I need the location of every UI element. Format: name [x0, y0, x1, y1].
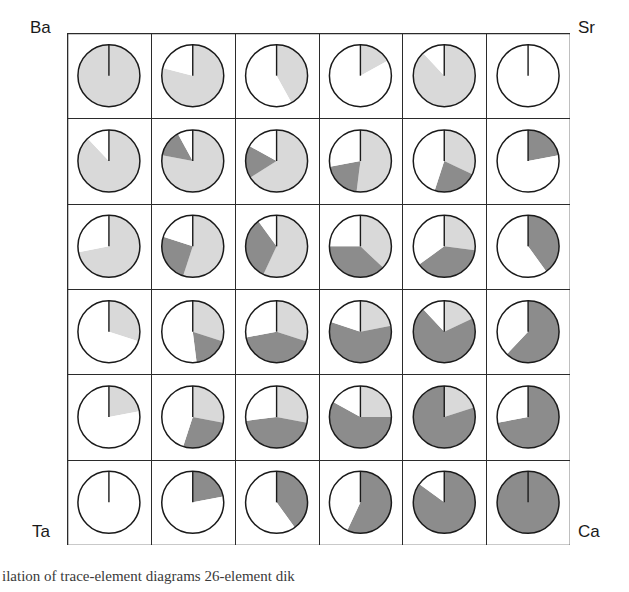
pie-cell [78, 301, 140, 363]
pie-cell [413, 471, 475, 533]
pie-cell [329, 215, 391, 277]
pie-cell [413, 130, 475, 192]
figure-caption-text: ilation of trace-element diagrams 26-ele… [0, 568, 629, 585]
pie-slice-dark [246, 417, 307, 448]
pie-slice-white [246, 386, 277, 421]
pie-cell [246, 45, 308, 107]
pie-cell [246, 471, 308, 533]
pie-slice-white [246, 301, 277, 338]
grid-lines-layer [67, 33, 570, 545]
pie-cell [413, 215, 475, 277]
pie-cell [246, 215, 308, 277]
corner-label-top-left: Ba [30, 18, 51, 38]
pie-slice-light [444, 215, 475, 250]
pie-cell [413, 386, 475, 448]
pie-grid [67, 33, 570, 545]
corner-label-bottom-right: Ca [578, 522, 600, 542]
pie-cell [246, 130, 308, 192]
figure-caption: ilation of trace-element diagrams 26-ele… [0, 568, 629, 592]
pie-cell [497, 45, 559, 107]
pie-slice-white [162, 301, 197, 363]
pie-cell [78, 215, 140, 277]
pie-cell [78, 471, 140, 533]
pie-cell [162, 386, 224, 448]
pie-cell [329, 301, 391, 363]
corner-label-bottom-left: Ta [32, 522, 50, 542]
pie-cell [497, 130, 559, 192]
pie-cell [78, 130, 140, 192]
pie-slice-light [193, 386, 224, 423]
pie-cell [162, 301, 224, 363]
pie-cell [246, 301, 308, 363]
corner-label-top-right: Sr [578, 18, 595, 38]
pie-cell [162, 215, 224, 277]
pie-slice-light [357, 130, 392, 192]
pie-cell [497, 386, 559, 448]
pie-slice-white [497, 386, 528, 423]
pie-cell [162, 130, 224, 192]
pie-cell [162, 471, 224, 533]
pie-cell [329, 471, 391, 533]
pie-cell [413, 45, 475, 107]
pie-cell [497, 471, 559, 533]
pie-slice-white [329, 130, 360, 167]
pie-grid-svg [67, 33, 570, 545]
pie-cell [329, 45, 391, 107]
pie-cell [246, 386, 308, 448]
pie-slice-light [277, 386, 308, 423]
pie-slice-white [78, 215, 109, 252]
pie-cell [497, 215, 559, 277]
pie-matrix-figure: Ba Sr Ta Ca ilation of trace-element dia… [0, 0, 629, 592]
pie-cell [413, 301, 475, 363]
pie-cell [497, 301, 559, 363]
pie-cell [162, 45, 224, 107]
pie-cell [329, 386, 391, 448]
pie-cell [78, 386, 140, 448]
pie-cell [329, 130, 391, 192]
pie-cell [78, 45, 140, 107]
